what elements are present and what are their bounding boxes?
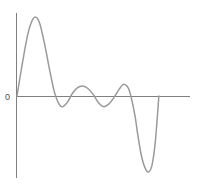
- origin-tick-label: 0: [5, 92, 10, 102]
- figure-container: 0: [0, 0, 199, 185]
- waveform-curve: [17, 17, 159, 172]
- plot-canvas: 0: [0, 0, 199, 185]
